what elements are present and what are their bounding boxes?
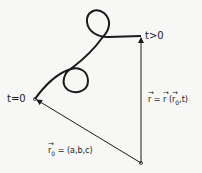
diagram-drawing [0, 0, 202, 173]
trajectory-curve [35, 10, 141, 99]
end-time-label: t>0 [145, 31, 164, 41]
trajectory-diagram: t=0 t>0 r = r (r0,t) r0 = (a,b,c) [0, 0, 202, 173]
initial-vector-label: r0 = (a,b,c) [48, 147, 93, 157]
position-vector-label: r = r (r0,t) [148, 96, 188, 106]
r0-arg-symbol: r [172, 96, 175, 104]
args-rest: ,t) [179, 95, 188, 104]
initial-coords: = (a,b,c) [55, 146, 93, 155]
r-function-symbol: r [163, 96, 166, 104]
r0-symbol: r [48, 147, 51, 155]
r-symbol: r [148, 96, 151, 104]
start-time-label: t=0 [7, 94, 26, 104]
